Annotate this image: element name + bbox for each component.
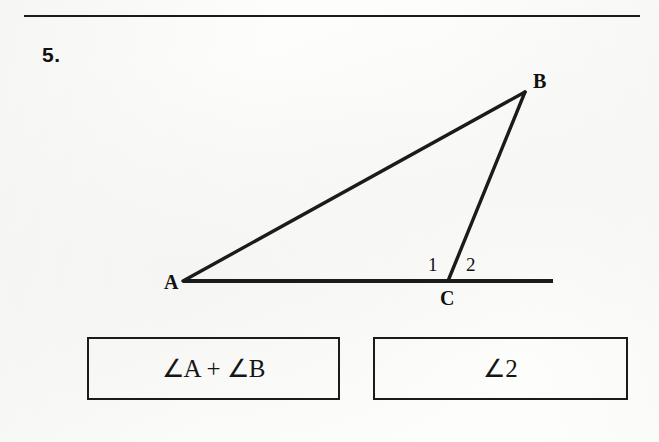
answer-box-2-text: ∠2 xyxy=(483,356,518,381)
segment-ab xyxy=(183,92,525,281)
angle-label-2: 2 xyxy=(466,255,476,274)
vertex-label-a: A xyxy=(164,272,178,292)
angle-label-1: 1 xyxy=(428,255,438,274)
segment-bc xyxy=(448,92,525,281)
vertex-label-b: B xyxy=(533,71,546,91)
answer-box-1-text: ∠A + ∠B xyxy=(162,356,266,381)
worksheet-page: 5. A B C 1 2 ∠A + ∠B ∠2 xyxy=(0,0,659,442)
vertex-label-c: C xyxy=(440,288,454,308)
answer-box-1[interactable]: ∠A + ∠B xyxy=(87,337,340,400)
answer-box-2[interactable]: ∠2 xyxy=(373,337,628,400)
